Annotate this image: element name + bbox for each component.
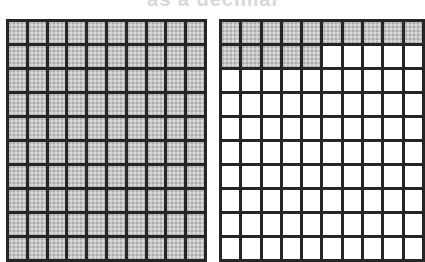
shaded-cell	[49, 190, 69, 214]
empty-cell	[344, 190, 364, 214]
shaded-cell	[108, 214, 128, 238]
empty-cell	[344, 46, 364, 70]
empty-cell	[242, 70, 262, 94]
empty-cell	[283, 118, 303, 142]
shaded-cell	[68, 190, 88, 214]
shaded-cell	[263, 22, 283, 46]
empty-cell	[222, 94, 242, 118]
shaded-cell	[49, 238, 69, 262]
shaded-cell	[108, 46, 128, 70]
shaded-cell	[49, 214, 69, 238]
shaded-cell	[29, 166, 49, 190]
shaded-cell	[9, 190, 29, 214]
empty-cell	[323, 94, 343, 118]
shaded-cell	[187, 238, 207, 262]
shaded-cell	[187, 142, 207, 166]
shaded-cell	[9, 238, 29, 262]
shaded-cell	[344, 22, 364, 46]
empty-cell	[222, 70, 242, 94]
shaded-cell	[9, 166, 29, 190]
empty-cell	[242, 214, 262, 238]
empty-cell	[364, 166, 384, 190]
empty-cell	[242, 118, 262, 142]
shaded-cell	[88, 22, 108, 46]
shaded-cell	[364, 22, 384, 46]
shaded-cell	[263, 46, 283, 70]
shaded-cell	[29, 46, 49, 70]
shaded-cell	[128, 190, 148, 214]
shaded-cell	[187, 94, 207, 118]
shaded-cell	[187, 70, 207, 94]
shaded-cell	[49, 70, 69, 94]
shaded-cell	[108, 118, 128, 142]
shaded-cell	[88, 238, 108, 262]
shaded-cell	[148, 214, 168, 238]
shaded-cell	[9, 70, 29, 94]
empty-cell	[405, 238, 425, 262]
shaded-cell	[148, 142, 168, 166]
shaded-cell	[167, 46, 187, 70]
shaded-cell	[187, 190, 207, 214]
shaded-cell	[68, 46, 88, 70]
empty-cell	[242, 238, 262, 262]
empty-cell	[303, 214, 323, 238]
empty-cell	[263, 94, 283, 118]
shaded-cell	[222, 46, 242, 70]
shaded-cell	[167, 190, 187, 214]
shaded-cell	[9, 94, 29, 118]
empty-cell	[323, 46, 343, 70]
empty-cell	[384, 118, 404, 142]
empty-cell	[263, 238, 283, 262]
shaded-cell	[167, 238, 187, 262]
empty-cell	[384, 238, 404, 262]
shaded-cell	[167, 70, 187, 94]
empty-cell	[405, 214, 425, 238]
shaded-cell	[148, 238, 168, 262]
empty-cell	[263, 118, 283, 142]
empty-cell	[344, 70, 364, 94]
shaded-cell	[9, 46, 29, 70]
shaded-cell	[167, 142, 187, 166]
shaded-cell	[29, 70, 49, 94]
empty-cell	[283, 70, 303, 94]
shaded-cell	[187, 22, 207, 46]
empty-cell	[364, 46, 384, 70]
shaded-cell	[88, 94, 108, 118]
shaded-cell	[148, 118, 168, 142]
shaded-cell	[128, 22, 148, 46]
shaded-cell	[148, 94, 168, 118]
empty-cell	[222, 238, 242, 262]
empty-cell	[384, 46, 404, 70]
shaded-cell	[9, 118, 29, 142]
empty-cell	[323, 190, 343, 214]
empty-cell	[344, 214, 364, 238]
empty-cell	[263, 166, 283, 190]
empty-cell	[384, 70, 404, 94]
shaded-cell	[242, 22, 262, 46]
empty-cell	[405, 70, 425, 94]
shaded-cell	[148, 166, 168, 190]
shaded-cell	[108, 238, 128, 262]
shaded-cell	[405, 22, 425, 46]
shaded-cell	[283, 22, 303, 46]
shaded-cell	[148, 22, 168, 46]
empty-cell	[303, 166, 323, 190]
empty-cell	[344, 238, 364, 262]
empty-cell	[303, 118, 323, 142]
empty-cell	[283, 166, 303, 190]
shaded-cell	[128, 214, 148, 238]
shaded-cell	[108, 94, 128, 118]
shaded-cell	[49, 142, 69, 166]
empty-cell	[364, 70, 384, 94]
empty-cell	[263, 190, 283, 214]
shaded-cell	[108, 22, 128, 46]
shaded-cell	[88, 214, 108, 238]
shaded-cell	[29, 94, 49, 118]
shaded-cell	[128, 94, 148, 118]
empty-cell	[263, 142, 283, 166]
shaded-cell	[242, 46, 262, 70]
shaded-cell	[29, 118, 49, 142]
shaded-cell	[128, 70, 148, 94]
shaded-cell	[88, 46, 108, 70]
empty-cell	[384, 190, 404, 214]
